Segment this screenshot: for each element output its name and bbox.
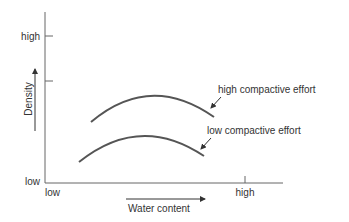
curve-low-compactive-effort	[79, 136, 204, 162]
high-curve-pointer	[211, 97, 221, 108]
low-curve-pointer	[201, 138, 211, 149]
high-curve-annotation: high compactive effort	[218, 84, 316, 95]
x-axis-label: Water content	[128, 203, 190, 214]
low-curve-annotation: low compactive effort	[207, 125, 301, 136]
compaction-curve-diagram: high low low high Density Water content …	[0, 0, 349, 222]
x-low-label: low	[45, 187, 61, 198]
curve-high-compactive-effort	[91, 96, 214, 122]
y-low-label: low	[25, 176, 41, 187]
y-high-label: high	[21, 31, 40, 42]
y-axis-label: Density	[23, 82, 34, 115]
x-high-label: high	[236, 187, 255, 198]
